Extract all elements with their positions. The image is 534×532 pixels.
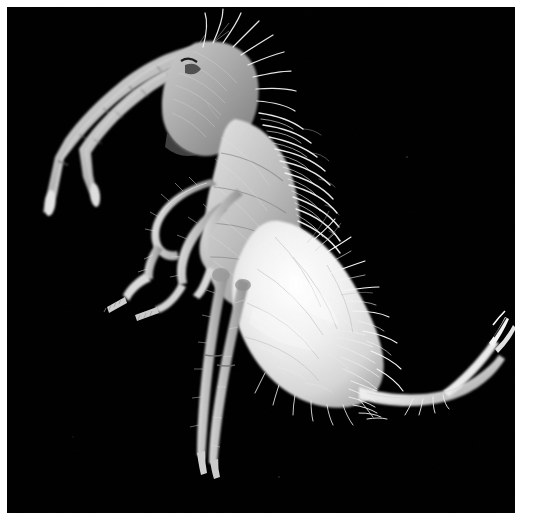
specimen-rendering (7, 7, 515, 513)
sem-grain (7, 7, 515, 513)
sem-micrograph (7, 7, 515, 513)
image-viewport: micro-arthropod (springtail / collembola… (0, 0, 534, 532)
